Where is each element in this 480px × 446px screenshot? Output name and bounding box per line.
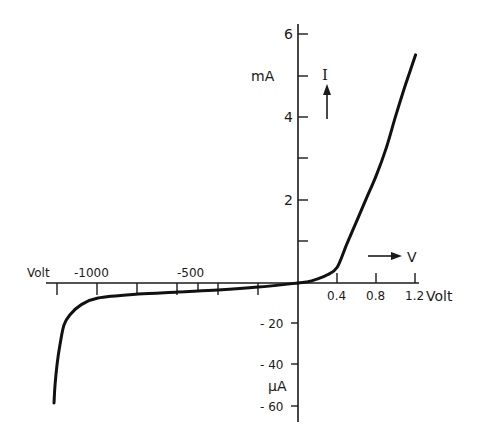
x-unit-right: Volt <box>426 288 453 304</box>
right-arrow-icon <box>368 252 402 260</box>
y-unit-forward: mA <box>251 68 275 84</box>
y-unit-reverse: μA <box>268 378 287 394</box>
y-tick-label-6: 6 <box>284 26 293 42</box>
x-tick-label-0.8: 0.8 <box>366 289 385 303</box>
diode-iv-chart: 6 mA 4 2 I V Volt -1000 -500 0.4 0.8 1.2… <box>0 0 480 446</box>
x-unit-left: Volt <box>27 266 50 280</box>
x-forward-ticks <box>337 273 415 283</box>
y-tick-label-neg20: - 20 <box>260 317 283 331</box>
reverse-characteristic-curve <box>54 283 298 403</box>
y-tick-label-2: 2 <box>284 192 293 208</box>
up-arrow-icon <box>323 84 331 119</box>
y-tick-label-neg40: - 40 <box>260 358 283 372</box>
forward-characteristic-curve <box>298 55 416 283</box>
x-tick-label-neg500: -500 <box>177 266 204 280</box>
current-symbol: I <box>322 66 328 84</box>
y-tick-label-4: 4 <box>284 109 293 125</box>
voltage-symbol: V <box>407 249 417 265</box>
x-tick-label-0.4: 0.4 <box>327 289 346 303</box>
x-tick-label-1.2: 1.2 <box>405 289 424 303</box>
y-reverse-ticks <box>291 323 298 406</box>
y-tick-label-neg60: - 60 <box>260 400 283 414</box>
x-tick-label-neg1000: -1000 <box>74 266 109 280</box>
y-forward-ticks <box>298 34 308 241</box>
